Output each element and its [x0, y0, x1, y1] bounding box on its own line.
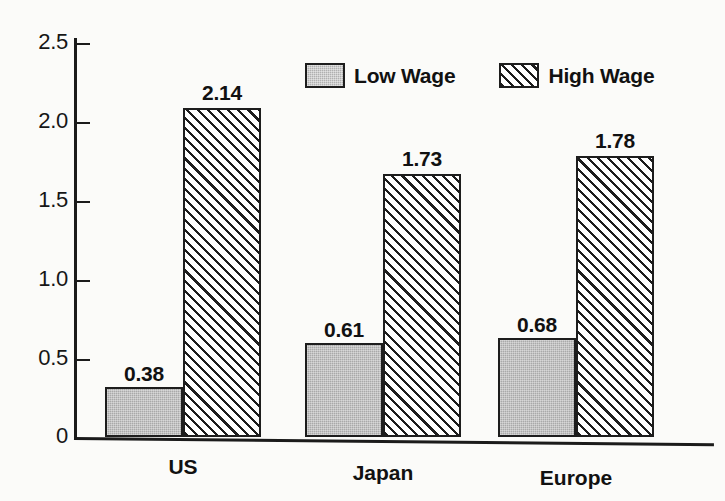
diagonal-hatch-swatch-icon — [499, 63, 539, 88]
bar-japan-low-wage[interactable] — [305, 343, 383, 437]
bar-chart: 2.5 2.0 1.5 1.0 0.5 0 — [0, 0, 725, 501]
legend-label-low-wage: Low Wage — [354, 64, 455, 88]
category-label-europe: Europe — [537, 466, 615, 490]
plot-area: 2.5 2.0 1.5 1.0 0.5 0 — [0, 0, 725, 501]
value-label-us-low: 0.38 — [105, 362, 183, 386]
legend-item-high-wage[interactable]: High Wage — [499, 63, 654, 88]
legend-item-low-wage[interactable]: Low Wage — [305, 63, 455, 88]
value-label-europe-low: 0.68 — [498, 313, 576, 337]
value-label-europe-high: 1.78 — [576, 129, 654, 153]
chart-legend: Low Wage High Wage — [305, 63, 654, 88]
bar-japan-high-wage[interactable] — [383, 174, 461, 437]
bar-europe-low-wage[interactable] — [498, 338, 576, 437]
bar-us-high-wage[interactable] — [183, 108, 261, 437]
category-label-us: US — [144, 455, 222, 479]
gray-solid-swatch-icon — [305, 63, 345, 88]
bar-europe-high-wage[interactable] — [576, 156, 654, 437]
y-tick-label-0-wrap: 0 — [0, 437, 68, 438]
bar-us-low-wage[interactable] — [105, 387, 183, 437]
legend-label-high-wage: High Wage — [548, 64, 654, 88]
bar-group-us-high — [183, 0, 261, 437]
value-label-us-high: 2.14 — [183, 81, 261, 105]
value-label-japan-low: 0.61 — [305, 318, 383, 342]
category-label-japan: Japan — [344, 461, 422, 485]
x-axis-line — [74, 437, 714, 446]
value-label-japan-high: 1.73 — [383, 147, 461, 171]
